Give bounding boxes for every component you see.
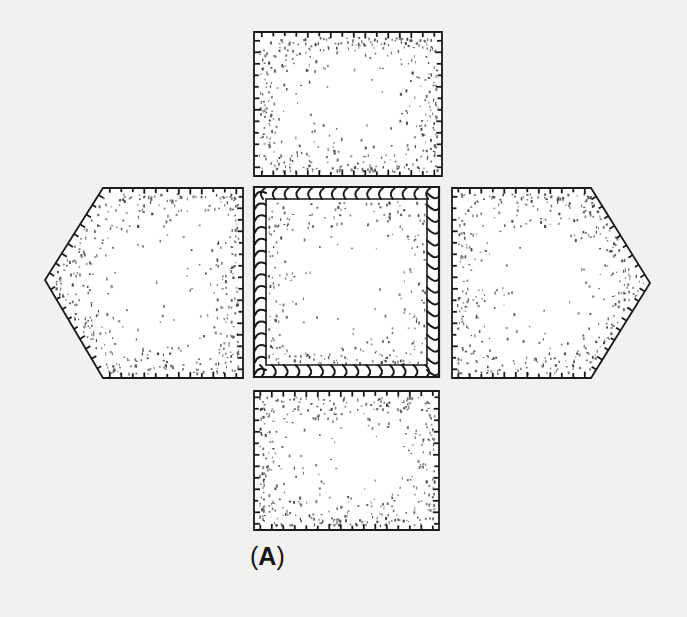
center-panel [254, 187, 439, 377]
label-close-paren: ) [276, 542, 284, 570]
label-letter: A [258, 542, 276, 570]
box-net-diagram [0, 0, 687, 617]
figure-label: (A) [250, 542, 285, 571]
bottom-panel [254, 391, 439, 530]
left-panel [45, 188, 243, 378]
right-panel [452, 188, 650, 378]
figure: (A) [0, 0, 687, 617]
top-panel [254, 32, 442, 176]
